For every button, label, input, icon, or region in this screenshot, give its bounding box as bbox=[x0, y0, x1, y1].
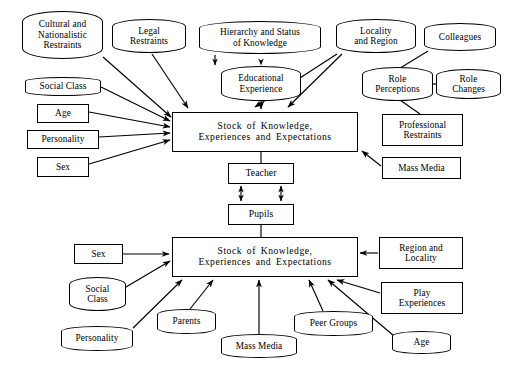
node-peer-groups[interactable]: Peer Groups bbox=[294, 311, 373, 336]
node-age-bottom[interactable]: Age bbox=[392, 331, 451, 354]
node-role-perceptions[interactable]: Role Perceptions bbox=[362, 67, 433, 101]
node-mass-media-top[interactable]: Mass Media bbox=[382, 157, 461, 179]
edge-cultural-to-stock bbox=[103, 57, 171, 117]
node-legal-restraints[interactable]: Legal Restraints bbox=[112, 19, 186, 53]
edge-socialclass-to-stock bbox=[101, 87, 170, 121]
edge-peergroups-to-stockb bbox=[309, 280, 323, 311]
node-age-top[interactable]: Age bbox=[37, 104, 89, 123]
edge-legal-to-stock bbox=[152, 54, 188, 108]
node-mass-media-bottom[interactable]: Mass Media bbox=[221, 334, 297, 358]
node-personality-top[interactable]: Personality bbox=[27, 130, 99, 149]
node-hierarchy-status-knowledge[interactable]: Hierarchy and Status of Knowledge bbox=[199, 21, 321, 54]
influence-diagram: Cultural and Nationalistic Restraints Le… bbox=[0, 0, 507, 375]
edge-parents-to-stockb bbox=[190, 280, 213, 309]
node-teacher[interactable]: Teacher bbox=[228, 163, 294, 184]
node-parents[interactable]: Parents bbox=[157, 309, 216, 334]
edge-personality-to-stock bbox=[99, 133, 170, 137]
node-social-class-bottom[interactable]: Social Class bbox=[69, 277, 126, 311]
edge-socialclassb-to-stockb bbox=[126, 261, 170, 287]
edge-sex-to-stock bbox=[89, 140, 170, 164]
node-role-changes[interactable]: Role Changes bbox=[436, 69, 501, 99]
node-colleagues[interactable]: Colleagues bbox=[424, 23, 496, 51]
edge-play-to-stockb bbox=[337, 280, 380, 293]
node-stock-pupil[interactable]: Stock of Knowledge, Experiences and Expe… bbox=[172, 237, 358, 277]
node-cultural-nationalistic-restraints[interactable]: Cultural and Nationalistic Restraints bbox=[22, 11, 103, 59]
node-play-experiences[interactable]: Play Experiences bbox=[381, 282, 463, 314]
node-sex-top[interactable]: Sex bbox=[37, 157, 89, 177]
node-professional-restraints[interactable]: Professional Restraints bbox=[382, 114, 463, 146]
node-region-and-locality[interactable]: Region and Locality bbox=[379, 237, 463, 269]
node-locality-and-region[interactable]: Locality and Region bbox=[336, 19, 416, 53]
node-personality-bottom[interactable]: Personality bbox=[61, 326, 133, 351]
node-stock-teacher[interactable]: Stock of Knowledge, Experiences and Expe… bbox=[172, 112, 358, 152]
edge-age-to-stock bbox=[89, 112, 170, 127]
node-educational-experience[interactable]: Educational Experience bbox=[221, 66, 301, 101]
node-sex-bottom[interactable]: Sex bbox=[74, 244, 123, 264]
edge-role-to-professional bbox=[400, 100, 420, 114]
edge-massmedia-to-stock bbox=[362, 151, 381, 166]
node-pupils[interactable]: Pupils bbox=[228, 204, 294, 225]
node-social-class-top[interactable]: Social Class bbox=[25, 77, 101, 96]
